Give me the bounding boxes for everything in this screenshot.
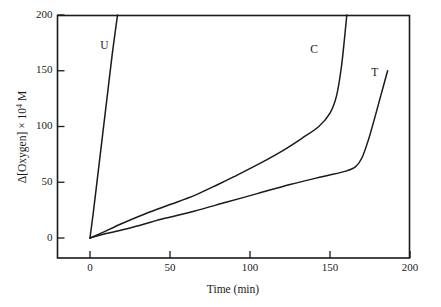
y-tick-label-50: 50 [42,175,54,187]
y-axis-tick-labels: 050100150200 [36,8,53,243]
y-axis-ticks [58,15,65,238]
x-axis-tick-labels: 050100150200 [87,261,419,273]
series-label-T: T [371,66,378,78]
x-tick-label-150: 150 [322,261,339,273]
y-tick-label-100: 100 [36,119,53,131]
y-axis-title: Δ[Oxygen] × 104 M [15,91,30,183]
x-tick-label-0: 0 [87,261,93,273]
x-tick-label-200: 200 [402,261,419,273]
y-tick-label-150: 150 [36,63,53,75]
x-axis-ticks [90,251,410,258]
plot-frame [58,16,410,259]
series-label-C: C [310,43,318,55]
oxygen-uptake-line-chart: 050100150200 050100150200 UCT Time (min)… [0,0,441,307]
y-axis-title-suffix: M [16,91,28,104]
y-axis-title-prefix: Δ[Oxygen] × 10 [16,108,29,183]
y-tick-label-0: 0 [47,231,53,243]
x-tick-label-50: 50 [165,261,177,273]
chart-figure: 050100150200 050100150200 UCT Time (min)… [0,0,441,307]
series-labels-group: UCT [100,39,378,78]
series-label-U: U [100,39,109,51]
x-tick-label-100: 100 [242,261,259,273]
x-axis-title: Time (min) [207,283,259,296]
series-line-T [90,71,388,238]
y-tick-label-200: 200 [36,8,53,20]
series-paths-group [90,15,388,238]
